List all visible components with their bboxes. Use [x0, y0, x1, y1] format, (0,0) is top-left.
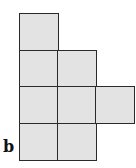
figure-label: b	[3, 139, 14, 155]
grid-cell	[19, 86, 59, 124]
grid-cell	[19, 123, 59, 161]
grid-cell	[19, 50, 59, 88]
grid-cell	[95, 86, 135, 124]
grid-cell	[57, 86, 97, 124]
grid-cell	[19, 13, 59, 51]
grid-cell	[57, 123, 97, 161]
grid-cell	[57, 50, 97, 88]
